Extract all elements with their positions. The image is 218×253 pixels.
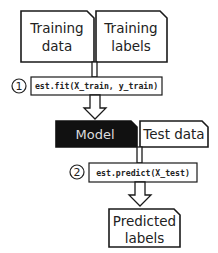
training-labels-line1: Training [103,20,157,36]
training-data-line2: data [42,38,72,54]
step-1: 1 est.fit(X_train, y_train) [12,77,162,95]
predicted-labels-line2: labels [125,230,165,246]
arrow-down-icon [129,182,151,206]
predicted-labels-line1: Predicted [113,213,176,229]
fit-code: est.fit(X_train, y_train) [35,81,158,91]
test-data-node: Test data [140,121,208,147]
training-labels-line2: labels [111,38,151,54]
connector-stem-2 [137,147,142,163]
training-labels-node: Training labels [96,11,167,62]
step-1-number: 1 [16,80,23,93]
step-2-number: 2 [74,166,81,179]
training-data-line1: Training [29,20,83,36]
predict-code: est.predict(X_test) [96,168,190,178]
test-data-label: Test data [142,126,204,142]
arrow-down-icon [84,95,106,119]
ml-workflow-diagram: Training data Training labels 1 est.fit(… [0,0,218,253]
training-data-node: Training data [21,11,94,62]
step-2: 2 est.predict(X_test) [70,163,197,182]
model-label: Model [75,127,114,142]
model-node: Model [56,121,137,147]
connector-stem-1 [92,62,97,77]
predicted-labels-node: Predicted labels [109,209,180,247]
